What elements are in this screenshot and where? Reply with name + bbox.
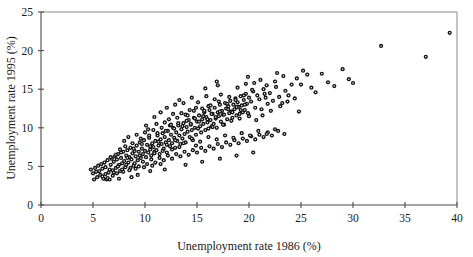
data-point-marker [163, 120, 167, 124]
x-tick-label: 30 [347, 212, 359, 224]
data-point-marker [225, 117, 229, 121]
data-point-marker [89, 167, 93, 171]
data-point-marker [137, 150, 141, 154]
data-point-marker [206, 135, 210, 139]
data-point-marker [152, 115, 156, 119]
data-point-marker [177, 133, 181, 137]
x-axis-label: Unemployment rate 1986 (%) [177, 239, 321, 253]
data-point-marker [274, 85, 278, 89]
data-point-marker [162, 158, 166, 162]
data-point-marker [122, 139, 126, 143]
data-point-marker [203, 149, 207, 153]
data-point-marker [237, 141, 241, 145]
data-point-marker [134, 167, 138, 171]
data-point-marker [177, 98, 181, 102]
data-point-marker [234, 153, 238, 157]
data-point-marker [175, 116, 179, 120]
data-point-marker [143, 130, 147, 134]
x-tick-label: 20 [243, 212, 255, 224]
data-point-marker [241, 137, 245, 141]
data-point-marker [100, 174, 104, 178]
data-point-marker [203, 86, 207, 90]
y-tick-label: 5 [27, 160, 33, 172]
data-point-marker [347, 77, 351, 81]
data-point-marker [181, 141, 185, 145]
data-point-marker [213, 97, 217, 101]
data-point-marker [244, 82, 248, 86]
x-tick-label: 35 [399, 212, 411, 224]
data-point-marker [173, 138, 177, 142]
data-point-marker [135, 143, 139, 147]
data-point-marker [332, 84, 336, 88]
data-point-marker [242, 98, 246, 102]
data-point-marker [185, 119, 189, 123]
data-point-marker [265, 83, 269, 87]
data-point-marker [182, 150, 186, 154]
data-point-marker [233, 98, 237, 102]
data-point-marker [226, 107, 230, 111]
data-point-marker [181, 101, 185, 105]
data-point-marker [260, 113, 264, 117]
data-point-marker [164, 129, 168, 133]
data-point-marker [320, 72, 324, 76]
data-point-marker [190, 96, 194, 100]
data-point-marker [208, 103, 212, 107]
y-tick-label: 10 [22, 122, 34, 134]
data-point-marker [309, 86, 313, 90]
data-point-marker [245, 139, 249, 143]
data-point-marker [119, 150, 123, 154]
data-point-marker [169, 123, 173, 127]
x-tick-label: 5 [90, 212, 96, 224]
data-point-marker [185, 125, 189, 129]
data-point-marker [161, 149, 165, 153]
data-point-marker [109, 155, 113, 159]
data-point-marker [178, 154, 182, 158]
data-point-marker [173, 103, 177, 107]
data-point-marker [179, 111, 183, 115]
x-tick-label: 40 [451, 212, 463, 224]
data-point-marker [157, 152, 161, 156]
data-point-marker [153, 160, 157, 164]
data-point-marker [176, 121, 180, 125]
data-point-marker [243, 103, 247, 107]
data-point-marker [248, 133, 252, 137]
y-tick-label: 0 [27, 199, 33, 211]
data-point-marker [108, 167, 112, 171]
data-point-marker [144, 123, 148, 127]
data-point-marker [169, 133, 173, 137]
data-point-marker [115, 171, 119, 175]
data-point-marker [268, 91, 272, 95]
data-point-marker [147, 133, 151, 137]
data-point-marker [186, 130, 190, 134]
data-point-marker [201, 114, 205, 118]
data-point-marker [247, 96, 251, 100]
data-point-marker [190, 137, 194, 141]
data-point-marker [257, 133, 261, 137]
data-point-marker [166, 153, 170, 157]
data-point-marker [228, 99, 232, 103]
data-point-marker [424, 55, 428, 59]
data-point-marker [130, 141, 134, 145]
data-point-marker [167, 117, 171, 121]
data-point-marker [163, 135, 167, 139]
data-point-marker [290, 82, 294, 86]
data-point-marker [207, 144, 211, 148]
data-point-marker [222, 113, 226, 117]
data-point-marker [282, 132, 286, 136]
data-point-marker [223, 133, 227, 137]
data-point-marker [126, 135, 130, 139]
data-point-marker [273, 127, 277, 131]
data-point-marker [129, 157, 133, 161]
data-point-marker [159, 162, 163, 166]
data-point-marker [174, 130, 178, 134]
y-axis-label: Unemployment rate 1995 (%) [4, 36, 18, 180]
data-point-marker [215, 137, 219, 141]
data-point-marker [448, 31, 452, 35]
data-point-marker [123, 144, 127, 148]
data-point-marker [157, 156, 161, 160]
data-point-marker [154, 122, 158, 126]
data-point-marker [148, 144, 152, 148]
data-point-marker [125, 156, 129, 160]
data-point-marker [351, 81, 355, 85]
data-point-marker [145, 162, 149, 166]
